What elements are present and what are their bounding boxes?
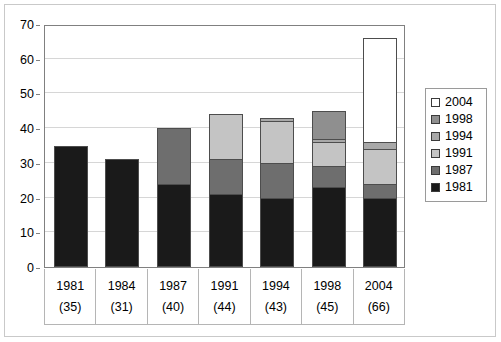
bar-segment-1987[interactable] (157, 128, 191, 184)
x-axis-total-label: (45) (316, 301, 338, 314)
legend-label: 2004 (445, 96, 473, 109)
y-tick-mark (36, 60, 40, 61)
x-axis-year-label: 1994 (262, 280, 290, 293)
bar-segment-1981[interactable] (209, 194, 243, 267)
bar-group[interactable] (312, 111, 346, 267)
legend-item-2004[interactable]: 2004 (431, 94, 482, 111)
y-tick-mark (36, 268, 40, 269)
x-axis-category: 1981(35) (45, 269, 96, 324)
x-axis-year-label: 1981 (56, 280, 84, 293)
legend-label: 1994 (445, 130, 473, 143)
bar-segment-1991[interactable] (260, 121, 294, 163)
y-axis: 010203040506070 (0, 25, 40, 268)
y-tick-label: 20 (20, 192, 34, 205)
y-tick-mark (36, 94, 40, 95)
x-axis-category: 2004(66) (354, 269, 404, 324)
x-axis-year-label: 2004 (365, 280, 393, 293)
y-tick-mark (36, 129, 40, 130)
y-tick-label: 30 (20, 158, 34, 171)
bar-segment-1981[interactable] (157, 184, 191, 267)
legend-item-1994[interactable]: 1994 (431, 128, 482, 145)
bar-group[interactable] (54, 146, 88, 268)
bar-segment-1981[interactable] (54, 146, 88, 268)
legend-swatch-icon (431, 115, 440, 124)
x-axis-total-label: (40) (162, 301, 184, 314)
bar-segment-1987[interactable] (312, 166, 346, 187)
legend-label: 1998 (445, 113, 473, 126)
x-axis-total-label: (35) (59, 301, 81, 314)
legend-swatch-icon (431, 132, 440, 141)
legend-item-1991[interactable]: 1991 (431, 145, 482, 162)
legend-label: 1991 (445, 147, 473, 160)
bar-group[interactable] (209, 114, 243, 267)
y-tick-mark (36, 25, 40, 26)
y-tick-label: 10 (20, 227, 34, 240)
legend-label: 1981 (445, 181, 473, 194)
bar-segment-1981[interactable] (260, 198, 294, 267)
plot-area (44, 25, 405, 268)
bar-group[interactable] (260, 118, 294, 267)
x-axis-total-label: (43) (265, 301, 287, 314)
legend-swatch-icon (431, 149, 440, 158)
bar-segment-2004[interactable] (363, 38, 397, 142)
bar-segment-1981[interactable] (312, 187, 346, 267)
y-tick-label: 0 (27, 262, 34, 275)
legend-item-1998[interactable]: 1998 (431, 111, 482, 128)
stacked-bar-chart: 010203040506070 1981(35)1984(31)1987(40)… (0, 0, 501, 342)
bar-segment-1991[interactable] (363, 149, 397, 184)
y-tick-mark (36, 164, 40, 165)
bar-segment-1987[interactable] (209, 159, 243, 194)
bar-segment-1994[interactable] (363, 142, 397, 149)
bar-segment-1987[interactable] (260, 163, 294, 198)
x-axis-total-label: (66) (368, 301, 390, 314)
legend-swatch-icon (431, 183, 440, 192)
y-tick-mark (36, 199, 40, 200)
x-axis-year-label: 1991 (211, 280, 239, 293)
y-tick-label: 60 (20, 53, 34, 66)
x-axis-category: 1984(31) (96, 269, 147, 324)
bar-segment-1991[interactable] (312, 142, 346, 166)
x-axis: 1981(35)1984(31)1987(40)1991(44)1994(43)… (44, 269, 405, 325)
x-axis-category: 1994(43) (251, 269, 302, 324)
bar-segment-1981[interactable] (105, 159, 139, 267)
bar-segment-1987[interactable] (363, 184, 397, 198)
legend-item-1987[interactable]: 1987 (431, 162, 482, 179)
y-tick-label: 50 (20, 88, 34, 101)
legend-label: 1987 (445, 164, 473, 177)
bar-group[interactable] (363, 38, 397, 267)
bar-group[interactable] (105, 159, 139, 267)
legend-item-1981[interactable]: 1981 (431, 179, 482, 196)
x-axis-category: 1987(40) (148, 269, 199, 324)
x-axis-category: 1991(44) (199, 269, 250, 324)
x-axis-category: 1998(45) (302, 269, 353, 324)
bar-segment-1991[interactable] (209, 114, 243, 159)
bar-segment-1981[interactable] (363, 198, 397, 267)
legend: 200419981994199119871981 (425, 88, 487, 202)
x-axis-year-label: 1998 (313, 280, 341, 293)
bars-layer (45, 26, 404, 267)
y-tick-label: 40 (20, 123, 34, 136)
bar-group[interactable] (157, 128, 191, 267)
x-axis-total-label: (44) (213, 301, 235, 314)
y-tick-mark (36, 233, 40, 234)
x-axis-year-label: 1984 (108, 280, 136, 293)
legend-swatch-icon (431, 98, 440, 107)
y-tick-label: 70 (20, 19, 34, 32)
legend-swatch-icon (431, 166, 440, 175)
bar-segment-1998[interactable] (312, 111, 346, 139)
x-axis-year-label: 1987 (159, 280, 187, 293)
x-axis-total-label: (31) (111, 301, 133, 314)
